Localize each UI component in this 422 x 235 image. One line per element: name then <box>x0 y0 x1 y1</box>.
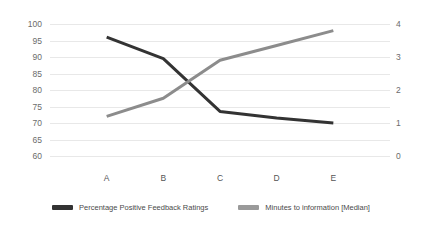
left-axis-tick: 100 <box>6 20 42 29</box>
series-line <box>107 31 334 117</box>
category-label: A <box>104 174 110 183</box>
legend-label: Percentage Positive Feedback Ratings <box>79 204 208 212</box>
category-axis: ABCDE <box>50 174 390 188</box>
category-label: E <box>330 174 336 183</box>
right-axis-tick: 1 <box>396 119 401 128</box>
series-lines <box>50 24 390 156</box>
legend-label: Minutes to information [Median] <box>265 204 370 212</box>
left-axis-tick: 70 <box>6 119 42 128</box>
left-axis-tick: 60 <box>6 152 42 161</box>
right-axis-tick: 2 <box>396 86 401 95</box>
plot-area <box>50 24 390 156</box>
right-axis-tick: 3 <box>396 53 401 62</box>
gridline <box>50 156 390 157</box>
left-axis-tick: 80 <box>6 86 42 95</box>
right-value-axis: 43210 <box>396 0 420 235</box>
line-chart: 1009590858075706560 43210 ABCDE Percenta… <box>0 0 422 235</box>
left-axis-tick: 90 <box>6 53 42 62</box>
left-axis-tick: 65 <box>6 136 42 145</box>
left-value-axis: 1009590858075706560 <box>0 0 42 235</box>
category-label: D <box>274 174 280 183</box>
right-axis-tick: 0 <box>396 152 401 161</box>
category-label: C <box>217 174 223 183</box>
left-axis-tick: 85 <box>6 70 42 79</box>
legend-swatch-icon <box>52 205 73 210</box>
category-label: B <box>160 174 166 183</box>
left-axis-tick: 75 <box>6 103 42 112</box>
right-axis-tick: 4 <box>396 20 401 29</box>
left-axis-tick: 95 <box>6 37 42 46</box>
legend-swatch-icon <box>238 205 259 210</box>
legend-item[interactable]: Percentage Positive Feedback Ratings <box>52 204 208 212</box>
series-line <box>107 37 334 123</box>
legend-item[interactable]: Minutes to information [Median] <box>238 204 370 212</box>
chart-legend: Percentage Positive Feedback RatingsMinu… <box>0 204 422 212</box>
